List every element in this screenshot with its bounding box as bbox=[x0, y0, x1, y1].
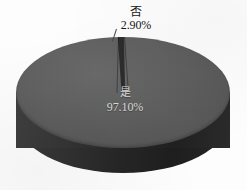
pie-chart-figure: 否 2.90% 是 97.10% bbox=[0, 0, 247, 190]
pie-label-no: 否 2.90% bbox=[104, 6, 168, 33]
pie-slice-divider-end bbox=[124, 37, 129, 93]
pie-label-no-value: 2.90% bbox=[104, 19, 168, 32]
pie-slice-divider-start bbox=[116, 37, 119, 93]
pie-label-yes-name: 是 bbox=[91, 86, 159, 100]
pie-label-yes-value: 97.10% bbox=[91, 100, 159, 115]
pie-label-no-name: 否 bbox=[104, 6, 168, 19]
pie-label-yes: 是 97.10% bbox=[91, 86, 159, 115]
